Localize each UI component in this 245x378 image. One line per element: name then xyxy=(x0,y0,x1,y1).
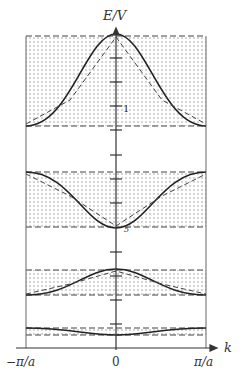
x-axis-label: k xyxy=(224,340,232,355)
y-axis-label: E/V xyxy=(102,8,128,23)
x-tick-zero: 0 xyxy=(112,355,120,369)
x-tick-left: −π/a xyxy=(6,355,35,369)
y-annotation-5: 5 xyxy=(124,225,129,234)
x-tick-right: π/a xyxy=(193,355,213,369)
band-structure-figure: E/V k −π/a 0 π/a 1 5 xyxy=(0,0,245,378)
y-annotation-1: 1 xyxy=(123,103,129,114)
